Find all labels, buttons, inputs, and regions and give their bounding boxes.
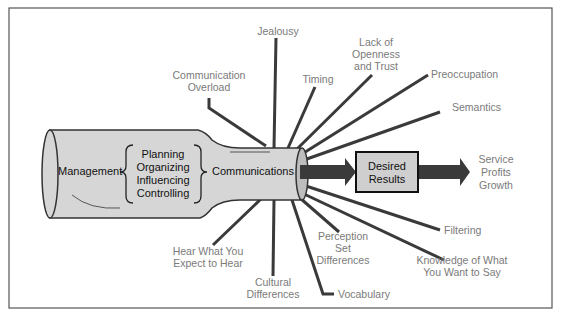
label-knowledge-1: Knowledge of What — [416, 254, 507, 266]
label-hear-what-2: Expect to Hear — [173, 257, 243, 269]
communications-label: Communications — [212, 165, 294, 177]
label-perception-2: Set — [335, 242, 351, 254]
desired-results-box — [356, 152, 418, 192]
label-filtering: Filtering — [444, 224, 482, 236]
function-organizing: Organizing — [136, 161, 189, 173]
label-lack-openness-2: Openness — [352, 48, 400, 60]
desired-line-1: Desired — [368, 160, 406, 172]
label-lack-openness-3: and Trust — [354, 60, 398, 72]
label-knowledge-2: You Want to Say — [423, 266, 501, 278]
label-perception-1: Perception — [318, 230, 368, 242]
function-planning: Planning — [142, 148, 185, 160]
label-communication-overload-1: Communication — [173, 69, 246, 81]
outcome-service: Service — [478, 153, 513, 165]
bottle-base — [42, 130, 58, 218]
label-semantics: Semantics — [452, 101, 501, 113]
label-vocabulary: Vocabulary — [338, 288, 391, 300]
label-perception-3: Differences — [317, 254, 370, 266]
function-controlling: Controlling — [137, 187, 190, 199]
label-cultural-1: Cultural — [255, 276, 291, 288]
desired-line-2: Results — [369, 173, 406, 185]
communication-barriers-diagram: Management Planning Organizing Influenci… — [0, 0, 562, 324]
function-influencing: Influencing — [136, 174, 189, 186]
outcome-profits: Profits — [481, 166, 511, 178]
label-hear-what-1: Hear What You — [173, 245, 244, 257]
label-jealousy: Jealousy — [257, 25, 299, 37]
management-label: Management — [58, 165, 122, 177]
label-communication-overload-2: Overload — [188, 81, 231, 93]
ray-cultural — [273, 200, 274, 276]
outcome-growth: Growth — [479, 179, 513, 191]
label-timing: Timing — [302, 73, 333, 85]
label-lack-openness-1: Lack of — [359, 36, 393, 48]
ray-jealousy — [274, 38, 276, 148]
label-cultural-2: Differences — [247, 288, 300, 300]
label-preoccupation: Preoccupation — [431, 68, 498, 80]
